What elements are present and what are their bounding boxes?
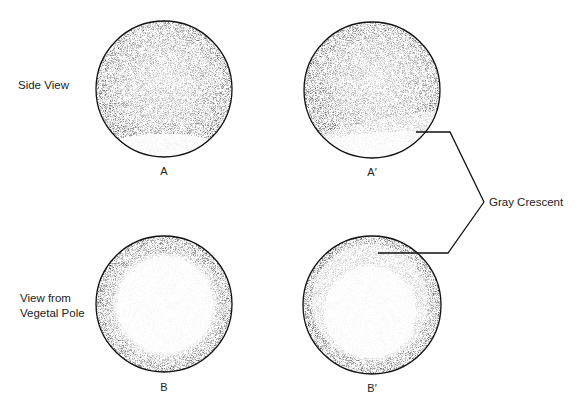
panel-label-a-prime: A′ [367,166,376,179]
egg-side-view-a [90,15,240,170]
panel-label-a: A [160,165,167,178]
panel-label-b: B [160,381,167,394]
vegetal-view-label-line2: Vegetal Pole [20,306,85,320]
side-view-label: Side View [18,78,69,92]
leader-line-top [416,132,484,202]
panel-label-b-prime: B′ [367,382,376,395]
egg-side-view-a-prime [300,15,450,170]
gray-crescent-label: Gray Crescent [489,195,563,209]
egg-vegetal-view-b [90,230,240,380]
vegetal-view-label-line1: View from [20,291,71,305]
